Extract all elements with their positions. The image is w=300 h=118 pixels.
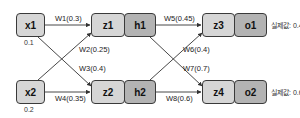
weight-label-w8: W8(0.6) bbox=[166, 94, 193, 103]
node-label: h2 bbox=[134, 87, 146, 98]
node-x2: x2 bbox=[16, 80, 45, 104]
weight-label-w5: W5(0.45) bbox=[164, 14, 195, 23]
weight-label-w6: W6(0.4) bbox=[183, 45, 210, 54]
node-z4: z4 bbox=[202, 80, 235, 104]
node-h1: h1 bbox=[124, 13, 156, 37]
weight-label-w3: W3(0.4) bbox=[79, 64, 106, 73]
node-label: o1 bbox=[245, 20, 257, 31]
node-label: z4 bbox=[213, 87, 224, 98]
node-o2: o2 bbox=[234, 80, 267, 104]
node-label: x1 bbox=[25, 20, 36, 31]
node-label: z1 bbox=[103, 20, 114, 31]
node-label: x2 bbox=[25, 87, 36, 98]
input-value-x2: 0.2 bbox=[24, 106, 34, 113]
weight-label-w4: W4(0.35) bbox=[55, 94, 86, 103]
actual-value-o1: 실제값: 0.4 bbox=[271, 20, 300, 30]
node-z2: z2 bbox=[91, 80, 125, 104]
node-z3: z3 bbox=[202, 13, 235, 37]
node-h2: h2 bbox=[124, 80, 156, 104]
actual-value-o2: 실제값: 0.6 bbox=[271, 87, 300, 97]
node-x1: x1 bbox=[16, 13, 45, 37]
input-value-x1: 0.1 bbox=[24, 39, 34, 46]
node-label: o2 bbox=[245, 87, 257, 98]
weight-label-w1: W1(0.3) bbox=[55, 14, 82, 23]
node-label: z2 bbox=[103, 87, 114, 98]
node-label: z3 bbox=[213, 20, 224, 31]
weight-label-w2: W2(0.25) bbox=[79, 45, 110, 54]
node-o1: o1 bbox=[234, 13, 267, 37]
node-z1: z1 bbox=[91, 13, 125, 37]
weight-label-w7: W7(0.7) bbox=[183, 64, 210, 73]
node-label: h1 bbox=[134, 20, 146, 31]
